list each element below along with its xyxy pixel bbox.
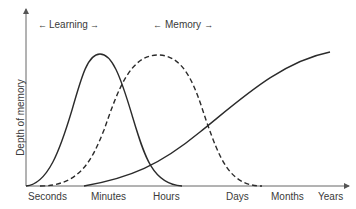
x-tick-hours: Hours — [153, 191, 180, 202]
right-arrow-icon: → — [204, 20, 213, 30]
x-tick-months: Months — [271, 191, 304, 202]
chart-canvas — [0, 0, 356, 209]
y-axis-label: Depth of memory — [15, 78, 26, 158]
x-tick-minutes: Minutes — [91, 191, 126, 202]
right-arrow-icon: → — [90, 20, 99, 30]
learning-annotation: ← Learning → — [38, 19, 99, 30]
learning-curve — [26, 54, 182, 186]
left-arrow-icon: ← — [38, 20, 47, 30]
long-term-curve — [84, 52, 330, 186]
x-tick-days: Days — [226, 191, 249, 202]
x-tick-seconds: Seconds — [28, 191, 67, 202]
memory-label: Memory — [165, 19, 201, 30]
x-tick-years: Years — [318, 191, 343, 202]
learning-label: Learning — [49, 19, 88, 30]
left-arrow-icon: ← — [153, 20, 162, 30]
memory-annotation: ← Memory → — [153, 19, 213, 30]
